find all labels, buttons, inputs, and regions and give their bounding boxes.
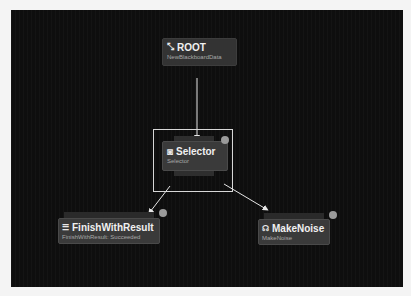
finish-decorator-dot [159, 209, 167, 217]
finish-task-icon: ☰ [62, 222, 69, 233]
finish-node-subtitle: FinishWithResult: Succeeded [62, 234, 156, 241]
finish-node-title: FinishWithResult [72, 222, 154, 233]
make-noise-node[interactable]: ☊ MakeNoise MakeNoise [258, 213, 330, 247]
finish-with-result-node[interactable]: ☰ FinishWithResult FinishWithResult: Suc… [58, 212, 160, 246]
selector-node-title: Selector [176, 146, 215, 157]
noise-node-subtitle: MakeNoise [262, 235, 326, 242]
root-node-subtitle: NewBlackboardData [167, 54, 232, 61]
root-node[interactable]: ⤡ ROOT NewBlackboardData [162, 38, 237, 66]
selector-decorator-dot [221, 136, 229, 144]
root-icon: ⤡ [167, 42, 174, 53]
selector-node[interactable]: ◙ Selector Selector [162, 136, 228, 176]
noise-decorator-dot [329, 211, 337, 219]
root-node-title: ROOT [177, 42, 206, 53]
selector-node-subtitle: Selector [167, 158, 223, 165]
make-noise-icon: ☊ [262, 223, 269, 234]
selector-icon: ◙ [167, 146, 173, 157]
noise-node-title: MakeNoise [272, 223, 324, 234]
selector-output-pin[interactable] [174, 171, 214, 176]
